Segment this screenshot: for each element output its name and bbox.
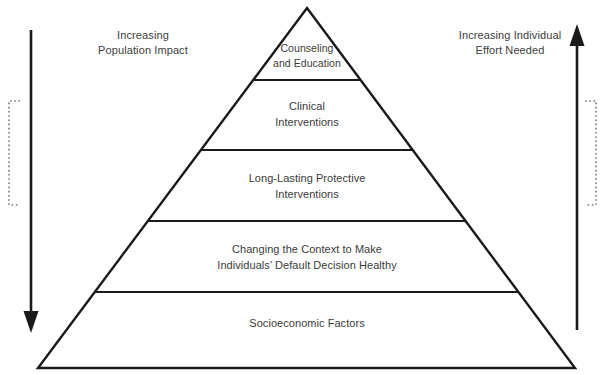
pyramid-tier-clinical-interventions: Clinical Interventions [232,98,382,130]
pyramid-tier-counseling-and-education: Counseling and Education [237,41,377,71]
right-axis-label: Increasing Individual Effort Needed [430,28,590,58]
pyramid-tier-changing-the-context: Changing the Context to Make Individuals… [172,241,442,273]
right-dotted-bracket [585,101,596,205]
left-dotted-bracket [9,101,20,205]
pyramid-tier-socioeconomic-factors: Socioeconomic Factors [192,315,422,331]
left-down-arrow [24,30,39,333]
right-up-arrow [570,24,585,330]
left-axis-label: Increasing Population Impact [58,28,228,58]
health-impact-pyramid-figure: Increasing Population Impact Increasing … [0,0,604,375]
pyramid-tier-long-lasting-protective-interventions: Long-Lasting Protective Interventions [192,170,422,202]
